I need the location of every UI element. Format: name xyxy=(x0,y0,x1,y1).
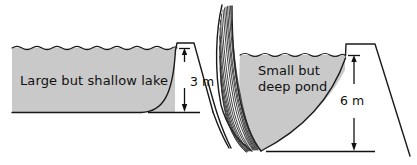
pond-body-label-line1: Small but xyxy=(258,63,353,79)
arrow-down-icon xyxy=(182,104,187,112)
left-panel-group xyxy=(12,43,229,148)
lake-depth-label: 3 m xyxy=(190,74,214,89)
arrow-down-icon xyxy=(351,143,356,151)
pond-depth-label: 6 m xyxy=(340,93,364,108)
left-depth-dimension xyxy=(179,48,190,112)
lake-body-label: Large but shallow lake xyxy=(20,73,170,88)
pond-body-label-line2: deep pond xyxy=(258,79,353,95)
reservoir-comparison-diagram: Large but shallow lake 3 m Small but dee… xyxy=(0,0,417,165)
